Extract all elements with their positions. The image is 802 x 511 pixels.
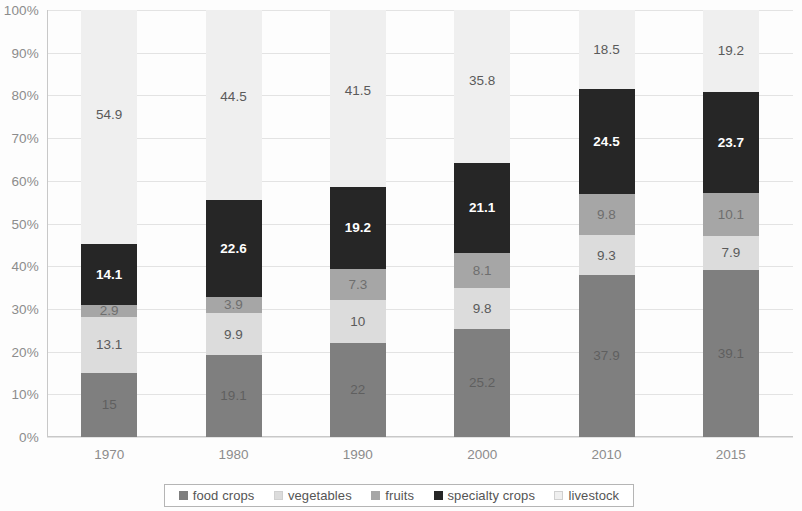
bar-segment-label: 15 — [102, 398, 117, 412]
bar-segment-label: 7.9 — [721, 246, 740, 260]
y-axis-tick-label: 0% — [19, 430, 39, 445]
bar-segment-label: 35.8 — [469, 74, 495, 88]
x-axis-tick-label: 2000 — [467, 447, 497, 462]
bar-segment-label: 22 — [350, 383, 365, 397]
bars-layer: 1513.12.914.154.919.19.93.922.644.522107… — [47, 10, 793, 437]
bar-segment[interactable]: 3.9 — [206, 297, 262, 314]
bar-segment[interactable]: 25.2 — [454, 329, 510, 437]
bar-segment[interactable]: 7.3 — [330, 269, 386, 300]
bar-segment-label: 9.8 — [473, 302, 492, 316]
bar-segment[interactable]: 41.5 — [330, 10, 386, 187]
y-axis-tick-label: 60% — [11, 173, 39, 188]
bar-segment[interactable]: 9.9 — [206, 313, 262, 355]
x-axis: 197019801990200020102015 — [47, 447, 793, 471]
legend-item-label: fruits — [385, 488, 414, 503]
bar-group[interactable]: 25.29.88.121.135.8 — [454, 10, 510, 437]
bar-group[interactable]: 37.99.39.824.518.5 — [579, 10, 635, 437]
bar-segment[interactable]: 13.1 — [81, 317, 137, 373]
bar-segment-label: 10.1 — [718, 208, 744, 222]
legend-item[interactable]: vegetables — [274, 488, 352, 503]
legend-item[interactable]: food crops — [179, 488, 255, 503]
bar-segment-label: 24.5 — [593, 135, 619, 149]
bar-segment-label: 9.3 — [597, 249, 616, 263]
bar-group[interactable]: 1513.12.914.154.9 — [81, 10, 137, 437]
bar-segment[interactable]: 8.1 — [454, 253, 510, 288]
bar-segment-label: 25.2 — [469, 376, 495, 390]
legend-swatch-icon — [371, 491, 380, 500]
y-axis-tick-label: 90% — [11, 45, 39, 60]
bar-segment[interactable]: 44.5 — [206, 10, 262, 200]
bar-segment[interactable]: 10.1 — [703, 193, 759, 236]
y-axis-tick-label: 20% — [11, 344, 39, 359]
y-axis-tick-label: 50% — [11, 216, 39, 231]
bar-segment[interactable]: 35.8 — [454, 10, 510, 163]
bar-segment[interactable]: 19.2 — [330, 187, 386, 269]
bar-segment[interactable]: 37.9 — [579, 275, 635, 437]
legend-item-label: food crops — [193, 488, 255, 503]
bar-segment[interactable]: 54.9 — [81, 10, 137, 244]
bar-segment-label: 19.2 — [345, 221, 371, 235]
bar-segment-label: 3.9 — [224, 298, 243, 312]
bar-group[interactable]: 39.17.910.123.719.2 — [703, 10, 759, 437]
legend-item-label: vegetables — [288, 488, 352, 503]
bar-segment[interactable]: 19.1 — [206, 355, 262, 437]
bar-segment[interactable]: 21.1 — [454, 163, 510, 253]
bar-segment-label: 2.9 — [100, 304, 119, 318]
legend-item[interactable]: fruits — [371, 488, 414, 503]
bar-group[interactable]: 19.19.93.922.644.5 — [206, 10, 262, 437]
x-axis-tick-label: 2015 — [716, 447, 746, 462]
bar-segment[interactable]: 19.2 — [703, 10, 759, 92]
bar-segment[interactable]: 9.3 — [579, 235, 635, 275]
bar-segment-label: 9.9 — [224, 328, 243, 342]
legend-swatch-icon — [179, 491, 188, 500]
bar-segment[interactable]: 18.5 — [579, 10, 635, 89]
plot-area: 1513.12.914.154.919.19.93.922.644.522107… — [47, 10, 793, 437]
bar-segment[interactable]: 9.8 — [454, 288, 510, 330]
bar-segment-label: 9.8 — [597, 208, 616, 222]
bar-segment-label: 41.5 — [345, 84, 371, 98]
bar-segment[interactable]: 22.6 — [206, 200, 262, 297]
bar-segment-label: 19.2 — [718, 44, 744, 58]
x-axis-tick-label: 2010 — [591, 447, 621, 462]
legend-item-label: livestock — [568, 488, 619, 503]
bar-segment-label: 7.3 — [348, 278, 367, 292]
y-axis: 100%90%80%70%60%50%40%30%20%10%0% — [0, 10, 43, 437]
y-axis-tick-label: 30% — [11, 301, 39, 316]
bar-segment[interactable]: 24.5 — [579, 89, 635, 194]
bar-segment[interactable]: 22 — [330, 343, 386, 437]
bar-segment-label: 39.1 — [718, 347, 744, 361]
bar-segment-label: 19.1 — [220, 389, 246, 403]
legend-swatch-icon — [274, 491, 283, 500]
legend-swatch-icon — [434, 491, 443, 500]
y-axis-tick-label: 10% — [11, 387, 39, 402]
bar-segment-label: 22.6 — [220, 242, 246, 256]
x-axis-tick-label: 1970 — [94, 447, 124, 462]
legend-item[interactable]: livestock — [554, 488, 619, 503]
x-axis-tick-label: 1980 — [218, 447, 248, 462]
bar-segment[interactable]: 7.9 — [703, 236, 759, 270]
y-axis-tick-label: 40% — [11, 259, 39, 274]
bar-segment[interactable]: 2.9 — [81, 305, 137, 317]
gridline — [47, 437, 793, 438]
bar-segment[interactable]: 9.8 — [579, 194, 635, 236]
legend-item-label: specialty crops — [448, 488, 535, 503]
bar-segment[interactable]: 39.1 — [703, 270, 759, 437]
bar-group[interactable]: 22107.319.241.5 — [330, 10, 386, 437]
bar-segment-label: 37.9 — [593, 349, 619, 363]
bar-segment[interactable]: 14.1 — [81, 244, 137, 304]
bar-segment[interactable]: 23.7 — [703, 92, 759, 193]
bar-segment-label: 54.9 — [96, 108, 122, 122]
bar-segment-label: 10 — [350, 315, 365, 329]
stacked-bar-chart: 100%90%80%70%60%50%40%30%20%10%0% 1513.1… — [0, 0, 802, 511]
y-axis-tick-label: 70% — [11, 131, 39, 146]
bar-segment-label: 8.1 — [473, 264, 492, 278]
bar-segment[interactable]: 10 — [330, 300, 386, 343]
bar-segment-label: 44.5 — [220, 90, 246, 104]
y-axis-tick-label: 80% — [11, 88, 39, 103]
chart-legend: food cropsvegetablesfruitsspecialty crop… — [164, 484, 634, 507]
bar-segment-label: 14.1 — [96, 268, 122, 282]
bar-segment-label: 23.7 — [718, 136, 744, 150]
legend-item[interactable]: specialty crops — [434, 488, 535, 503]
bar-segment[interactable]: 15 — [81, 373, 137, 437]
bar-segment-label: 13.1 — [96, 338, 122, 352]
